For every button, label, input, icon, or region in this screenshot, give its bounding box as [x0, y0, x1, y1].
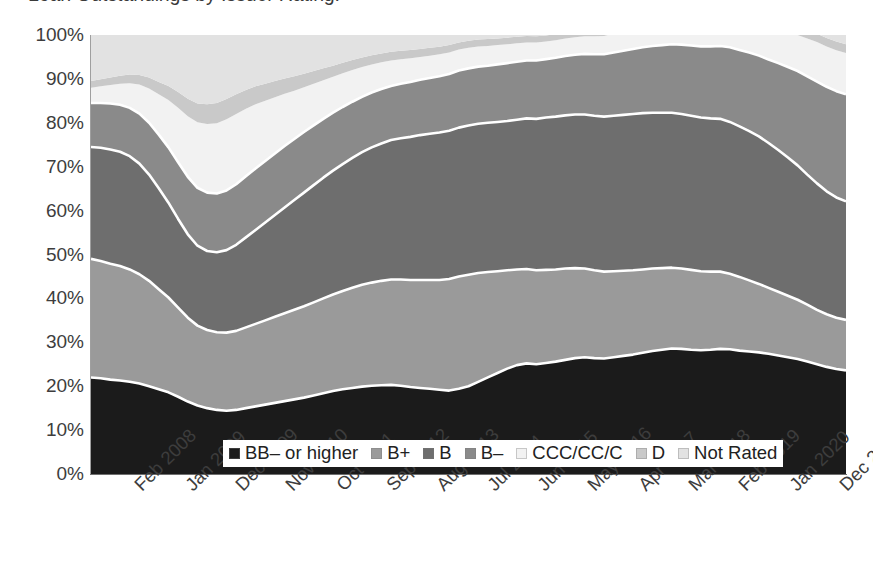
x-axis-tick-label: Apr 2017: [634, 480, 650, 496]
y-axis-tick: 80%: [0, 112, 84, 134]
y-axis-tick: 40%: [0, 287, 84, 309]
legend-swatch-ccc-cc-c: [516, 448, 527, 459]
x-axis-tick-label: Jul 2014: [483, 480, 499, 496]
x-axis-tick-label: Feb 2008: [130, 480, 146, 496]
y-axis-tick: 20%: [0, 375, 84, 397]
x-axis: Feb 2008Jan 2009Dec 2009Nov 2010Oct 2011…: [0, 474, 873, 585]
legend-item-label: B–: [481, 444, 504, 463]
y-axis: 100%90%80%70%60%50%40%30%20%10%0%: [0, 35, 84, 474]
legend-swatch-b-minus: [465, 448, 476, 459]
y-axis-tick: 90%: [0, 68, 84, 90]
legend-item[interactable]: CCC/CC/C: [516, 444, 622, 463]
legend-item-label: B: [439, 444, 451, 463]
legend-swatch-d: [636, 448, 647, 459]
plot-area: [91, 35, 846, 474]
chart-legend: BB– or higherB+BB–CCC/CC/CDNot Rated: [223, 440, 783, 467]
legend-item-label: CCC/CC/C: [532, 444, 622, 463]
y-axis-tick: 60%: [0, 200, 84, 222]
legend-item[interactable]: Not Rated: [678, 444, 777, 463]
x-axis-tick-label: Aug 2013: [432, 480, 448, 496]
stacked-area-chart: [91, 35, 846, 474]
x-axis-tick-label: Nov 2010: [281, 480, 297, 496]
legend-item[interactable]: BB– or higher: [229, 444, 358, 463]
page-title: Loan Outstandings by Issuer Rating:: [28, 0, 340, 6]
legend-swatch-b: [423, 448, 434, 459]
x-axis-tick-label: Feb 2019: [734, 480, 750, 496]
legend-swatch-not-rated: [678, 448, 689, 459]
legend-item[interactable]: B: [423, 444, 451, 463]
y-axis-tick: 70%: [0, 156, 84, 178]
x-axis-tick-label: May 2016: [583, 480, 599, 496]
legend-swatch-b-plus: [371, 448, 382, 459]
legend-item-label: D: [652, 444, 665, 463]
legend-swatch-bb-or-higher: [229, 448, 240, 459]
x-axis-tick-label: Dec 2009: [231, 480, 247, 496]
x-axis-tick-label: Sep 2012: [382, 480, 398, 496]
x-axis-tick-label: Mar 2018: [684, 480, 700, 496]
legend-item[interactable]: B–: [465, 444, 504, 463]
x-axis-tick-label: Jan 2009: [181, 480, 197, 496]
y-axis-tick: 10%: [0, 419, 84, 441]
x-axis-tick-label: Dec 2020: [835, 480, 851, 496]
x-axis-tick-label: Jan 2020: [785, 480, 801, 496]
legend-item[interactable]: B+: [371, 444, 410, 463]
y-axis-tick: 30%: [0, 331, 84, 353]
legend-item[interactable]: D: [636, 444, 665, 463]
legend-item-label: BB– or higher: [245, 444, 358, 463]
chart-root: Loan Outstandings by Issuer Rating: 100%…: [0, 0, 873, 585]
legend-item-label: Not Rated: [694, 444, 777, 463]
x-axis-tick-label: Oct 2011: [332, 480, 348, 496]
y-axis-tick: 50%: [0, 244, 84, 266]
x-axis-tick-label: Jun 2015: [533, 480, 549, 496]
y-axis-tick: 100%: [0, 24, 84, 46]
legend-item-label: B+: [387, 444, 410, 463]
